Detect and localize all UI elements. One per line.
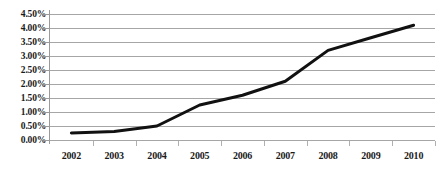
y-axis-tick	[44, 112, 49, 113]
x-axis-tick	[264, 141, 265, 146]
y-axis-tick	[44, 56, 49, 57]
x-axis-tick	[349, 141, 350, 146]
y-axis-tick	[44, 140, 49, 141]
x-axis-tick	[221, 141, 222, 146]
y-axis-tick	[44, 70, 49, 71]
x-axis-tick	[178, 141, 179, 146]
x-axis-tick-label: 2002	[62, 150, 81, 161]
x-axis-tick-label: 2009	[361, 150, 380, 161]
series-line	[71, 25, 413, 133]
x-axis-tick-label: 2006	[233, 150, 252, 161]
y-axis-tick	[44, 14, 49, 15]
x-axis-tick	[307, 141, 308, 146]
x-axis-labels: 200220032004200520062007200820092010	[0, 150, 443, 170]
y-axis-tick	[44, 126, 49, 127]
x-axis-tick-label: 2005	[190, 150, 209, 161]
x-axis-tick-label: 2007	[276, 150, 295, 161]
x-axis-tick	[93, 141, 94, 146]
y-axis-tick	[44, 98, 49, 99]
x-axis-tick	[435, 141, 436, 146]
y-axis-tick	[44, 42, 49, 43]
line-chart: 0.00%0.50%1.00%1.50%2.00%2.50%3.00%3.50%…	[0, 0, 443, 181]
y-axis-tick	[44, 28, 49, 29]
x-axis-tick-label: 2010	[404, 150, 423, 161]
x-axis-tick	[392, 141, 393, 146]
x-axis-tick-label: 2004	[147, 150, 166, 161]
y-axis-tick	[44, 84, 49, 85]
x-axis-tick-label: 2008	[318, 150, 337, 161]
x-axis-tick-label: 2003	[105, 150, 124, 161]
x-axis-tick	[136, 141, 137, 146]
